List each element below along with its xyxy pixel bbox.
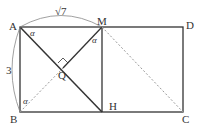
point-label-q: Q [58,70,66,81]
point-label-h: H [109,101,117,112]
angle-m-label: α [92,36,97,45]
segment-mq [63,27,102,68]
arc-am [20,16,102,28]
point-label-m: M [97,16,107,27]
measure-ab: 3 [6,65,12,76]
arc-ab [12,27,20,112]
angle-a-label: α [30,29,35,38]
point-label-d: D [186,20,194,31]
point-label-a: A [9,21,17,32]
point-label-c: C [182,114,189,125]
measure-am: √7 [55,6,67,17]
right-angle-mark [58,58,68,63]
point-label-b: B [10,114,17,125]
angle-b-label: α [23,97,28,106]
